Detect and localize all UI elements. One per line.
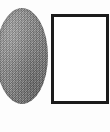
square-shape-alt-text: white square with thick black outline [0, 0, 1, 1]
figure-canvas: gray shaded circle white square with thi… [0, 0, 110, 132]
circle-shape [0, 8, 48, 104]
circle-shape-alt-text: gray shaded circle [0, 0, 1, 1]
square-shape [51, 14, 109, 104]
